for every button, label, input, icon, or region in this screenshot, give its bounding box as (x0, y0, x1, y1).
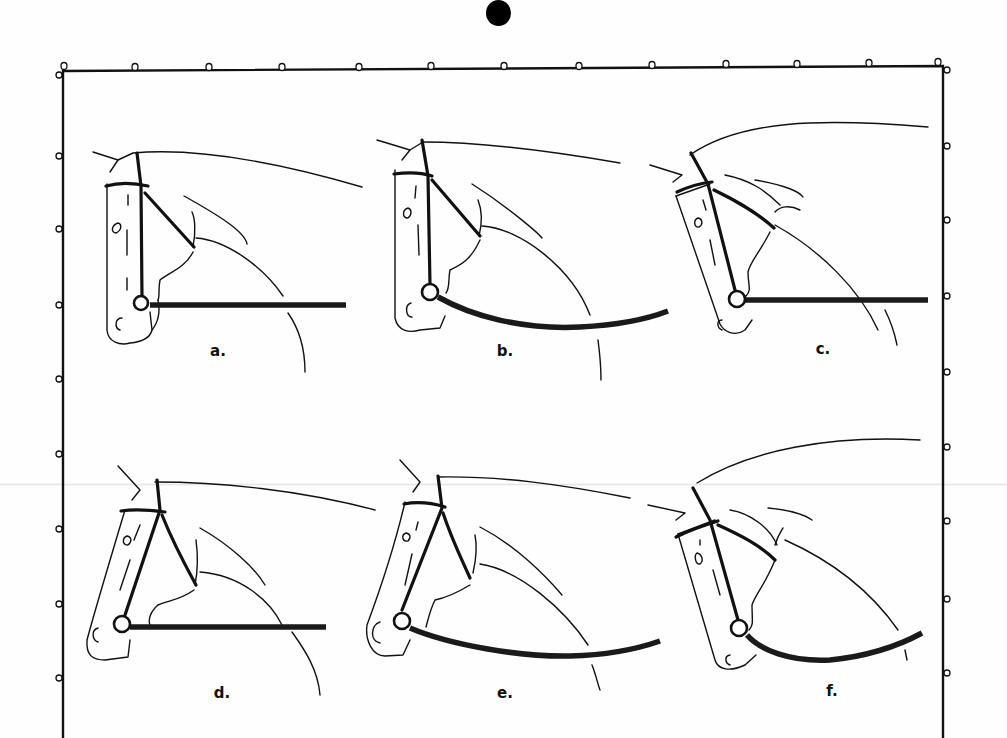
panel-c-horse (650, 122, 928, 345)
panel-e-horse (367, 460, 660, 690)
panel-a-horse (93, 152, 362, 372)
panel-f-horse (648, 439, 922, 669)
panel-label-a: a. (210, 342, 226, 360)
panel-b-horse (377, 140, 668, 380)
panel-label-f: f. (826, 682, 837, 700)
frame-holes (56, 59, 950, 682)
illustration-page: a. b. c. d. e. f. (0, 0, 1007, 738)
illustration-canvas (0, 0, 1007, 738)
panel-label-d: d. (214, 684, 230, 702)
panel-label-c: c. (816, 340, 831, 358)
panel-label-e: e. (497, 684, 513, 702)
panel-d-horse (87, 466, 375, 695)
frame (63, 66, 943, 738)
panel-label-b: b. (497, 342, 513, 360)
